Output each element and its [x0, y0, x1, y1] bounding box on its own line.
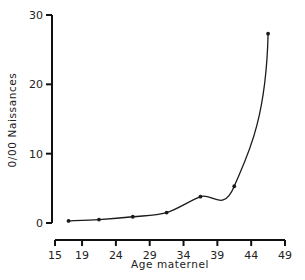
data-point	[232, 184, 236, 188]
x-tick-label: 15	[48, 249, 62, 262]
y-tick-label: 0	[36, 217, 43, 230]
x-tick-label: 24	[109, 249, 123, 262]
data-series	[67, 32, 270, 223]
y-tick-label: 10	[29, 148, 43, 161]
y-tick-label: 30	[29, 9, 43, 22]
x-axis-title: Age maternel	[131, 258, 209, 270]
x-tick-label: 44	[244, 249, 258, 262]
data-point	[131, 215, 135, 219]
data-point	[199, 195, 203, 199]
data-point	[266, 32, 270, 36]
y-axis: 0102030	[29, 9, 52, 230]
chart: 0102030 1519242934394449 0/00 Naissances…	[0, 0, 305, 280]
y-tick-label: 20	[29, 78, 43, 91]
data-point	[165, 211, 169, 215]
x-tick-label: 49	[278, 249, 292, 262]
x-tick-label: 19	[75, 249, 89, 262]
data-point	[97, 218, 101, 222]
y-axis-title: 0/00 Naissances	[6, 73, 18, 168]
data-point	[67, 219, 71, 223]
series-line	[69, 34, 269, 221]
x-tick-label: 39	[210, 249, 224, 262]
